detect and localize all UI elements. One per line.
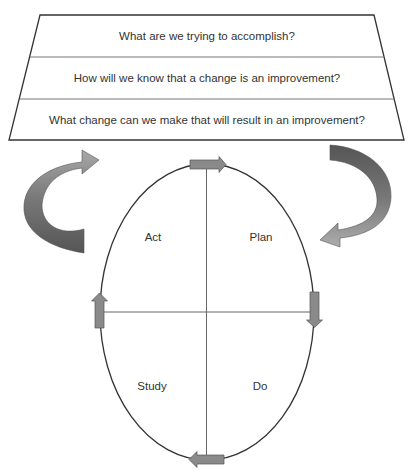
model-for-improvement-diagram: What are we trying to accomplish? How wi…	[0, 0, 413, 470]
curved-arrow-left-icon	[24, 150, 99, 253]
arrow-right-icon	[190, 157, 226, 173]
curved-arrow-right-icon	[320, 145, 391, 247]
quadrant-do: Do	[253, 380, 268, 392]
questions-trapezoid: What are we trying to accomplish? How wi…	[9, 15, 404, 140]
arrow-up-icon	[92, 293, 108, 328]
question-measures: How will we know that a change is an imp…	[74, 72, 341, 84]
arrow-down-icon	[307, 292, 323, 328]
quadrant-plan: Plan	[249, 231, 272, 243]
question-aim: What are we trying to accomplish?	[119, 30, 295, 42]
quadrant-act: Act	[145, 231, 162, 243]
quadrant-study: Study	[137, 380, 167, 392]
question-changes: What change can we make that will result…	[49, 114, 365, 126]
pdsa-cycle: Act Plan Study Do	[92, 157, 323, 468]
